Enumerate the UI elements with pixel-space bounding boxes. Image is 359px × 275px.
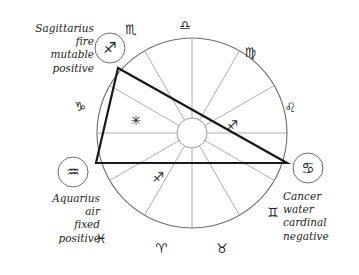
sagittarius-modality-label: mutable bbox=[4, 48, 94, 61]
aquarius-annotation: Aquarius air fixed positive bbox=[0, 192, 100, 245]
cancer-polarity-label: negative bbox=[283, 230, 359, 243]
house-spoke bbox=[200, 51, 240, 120]
scorpio-glyph: ♏ bbox=[125, 22, 137, 37]
aquarius-sign-label: Aquarius bbox=[0, 192, 100, 205]
grand-trine-shape bbox=[96, 68, 287, 163]
house-spoke bbox=[110, 86, 179, 126]
house-spoke bbox=[110, 141, 179, 181]
wheel-group bbox=[97, 38, 287, 228]
house-spoke bbox=[205, 86, 274, 126]
cancer-marker-glyph: ♋ bbox=[301, 159, 314, 177]
house-spoke bbox=[205, 141, 274, 181]
taurus-glyph: ♉ bbox=[216, 241, 228, 256]
cancer-annotation: Cancer water cardinal negative bbox=[283, 190, 359, 243]
aries-glyph: ♈ bbox=[155, 241, 167, 256]
house-spoke bbox=[200, 146, 240, 215]
zodiac-wheel-diagram: ♏♎♍♌♊♉♈♓♑ ✳♐♐ ♐♒♋ Sagittarius fire mutab… bbox=[0, 0, 359, 275]
cancer-modality-label: cardinal bbox=[283, 216, 359, 229]
sagittarius-polarity-label: positive bbox=[4, 62, 94, 75]
aquarius-modality-label: fixed bbox=[0, 218, 100, 231]
capricorn-glyph: ♑ bbox=[74, 99, 86, 114]
leo-glyph: ♌ bbox=[284, 100, 296, 115]
gemini-glyph: ♊ bbox=[267, 205, 279, 220]
cancer-sign-label: Cancer bbox=[283, 190, 359, 203]
aquarius-marker-glyph: ♒ bbox=[66, 163, 79, 181]
aquarius-polarity-label: positive bbox=[0, 232, 100, 245]
aquarius-inner-glyph: ✳ bbox=[131, 113, 142, 128]
libra-glyph: ♎ bbox=[179, 18, 191, 33]
sagittarius-sign-label: Sagittarius bbox=[4, 22, 94, 35]
house-spoke bbox=[145, 146, 185, 215]
cancer-element-label: water bbox=[283, 203, 359, 216]
sagittarius-marker-glyph: ♐ bbox=[103, 39, 116, 57]
sagittarius-annotation: Sagittarius fire mutable positive bbox=[4, 22, 94, 75]
wheel-inner-circle bbox=[177, 118, 207, 148]
aquarius-element-label: air bbox=[0, 205, 100, 218]
sagittarius-inner-left-glyph: ♐ bbox=[152, 170, 164, 185]
sagittarius-element-label: fire bbox=[4, 35, 94, 48]
virgo-glyph: ♍ bbox=[244, 45, 256, 60]
